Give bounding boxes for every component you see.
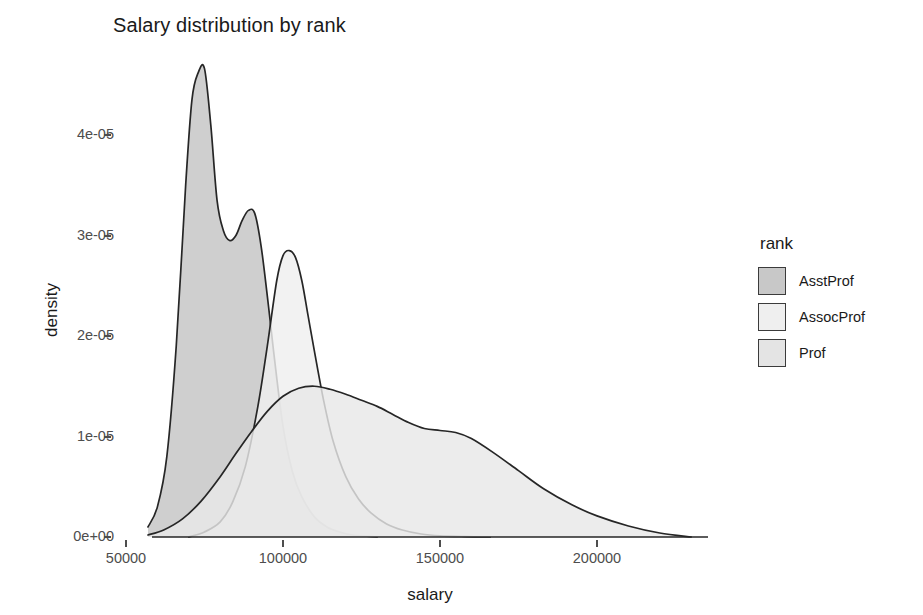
- legend-item-label: AssocProf: [799, 309, 865, 325]
- legend-item-assocprof[interactable]: AssocProf: [758, 300, 865, 333]
- x-axis-title: salary: [152, 585, 708, 605]
- legend-swatch-icon: [758, 339, 786, 367]
- x-tick-mark: [596, 540, 598, 547]
- legend-item-label: AsstProf: [799, 273, 854, 289]
- x-tick-mark: [125, 540, 127, 547]
- y-axis-title: density: [42, 250, 62, 370]
- y-tick-label: 3e-05: [34, 227, 114, 243]
- x-tick-mark: [439, 540, 441, 547]
- y-tick-label: 4e-05: [34, 126, 114, 142]
- y-tick-mark: [104, 335, 111, 337]
- x-tick-label: 100000: [223, 550, 343, 566]
- legend: rank AsstProfAssocProfProf: [758, 234, 865, 372]
- legend-title: rank: [760, 234, 865, 254]
- y-tick-mark: [104, 235, 111, 237]
- y-tick-label: 0e+00: [34, 528, 114, 544]
- density-plot-figure: Salary distribution by rank 0e+001e-052e…: [0, 0, 923, 615]
- x-tick-mark: [282, 540, 284, 547]
- y-tick: 3e-05: [18, 227, 114, 245]
- x-tick-label: 150000: [380, 550, 500, 566]
- legend-swatch-icon: [758, 303, 786, 331]
- y-tick-label: 1e-05: [34, 428, 114, 444]
- legend-items: AsstProfAssocProfProf: [758, 264, 865, 369]
- legend-item-asstprof[interactable]: AsstProf: [758, 264, 865, 297]
- x-tick-label: 200000: [537, 550, 657, 566]
- y-tick: 1e-05: [18, 428, 114, 446]
- x-tick-label: 50000: [66, 550, 186, 566]
- series-layer: [148, 65, 691, 537]
- y-tick-mark: [104, 536, 111, 538]
- legend-swatch-icon: [758, 267, 786, 295]
- legend-item-label: Prof: [799, 345, 826, 361]
- y-tick-mark: [104, 436, 111, 438]
- legend-item-prof[interactable]: Prof: [758, 336, 865, 369]
- y-tick-mark: [104, 134, 111, 136]
- y-tick: 2e-05: [18, 327, 114, 345]
- y-tick: 4e-05: [18, 126, 114, 144]
- y-tick: 0e+00: [18, 528, 114, 546]
